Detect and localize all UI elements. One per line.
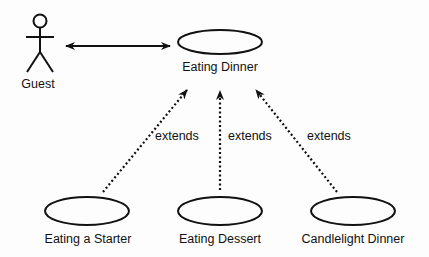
use-case-label-candle: Candlelight Dinner	[302, 232, 405, 246]
extends-label-dessert: extends	[228, 129, 272, 143]
use-case-label-dessert: Eating Dessert	[179, 232, 261, 246]
use-case-eating-dinner[interactable]	[178, 30, 262, 54]
use-case-eating-a-starter[interactable]	[45, 197, 129, 225]
extends-label-candle: extends	[307, 129, 351, 143]
use-case-label-main: Eating Dinner	[182, 60, 258, 74]
use-case-diagram	[0, 0, 429, 257]
use-case-label-starter: Eating a Starter	[45, 232, 132, 246]
extends-label-starter: extends	[155, 129, 199, 143]
actor-label: Guest	[21, 77, 54, 91]
actor-guest-icon[interactable]	[26, 15, 54, 73]
use-case-candlelight-dinner[interactable]	[311, 197, 395, 225]
use-case-eating-dessert[interactable]	[178, 197, 262, 225]
